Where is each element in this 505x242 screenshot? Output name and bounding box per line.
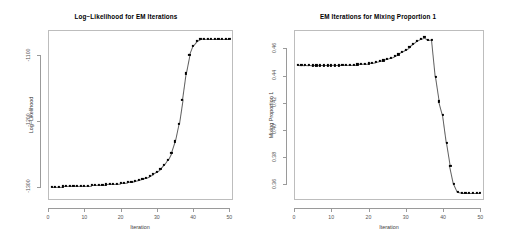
x-axis-tick (229, 208, 230, 212)
x-axis-title: Iteration (379, 224, 398, 230)
x-axis-tick-label: 10 (81, 214, 87, 220)
y-axis-tick-label: 0.40 (271, 119, 277, 139)
y-axis-line (286, 48, 287, 184)
plot-frame (48, 30, 233, 200)
panel-title: EM Iterations for Mixing Proportion 1 (252, 13, 504, 20)
x-axis-tick-label: 0 (47, 214, 50, 220)
x-axis-tick-label: 20 (366, 214, 372, 220)
y-axis-tick-label: 0.44 (271, 65, 277, 85)
x-axis-title: Iteration (130, 224, 149, 230)
x-axis-tick (369, 208, 370, 212)
y-axis-tick-label: 0.42 (271, 92, 277, 112)
x-axis-tick-label: 0 (293, 214, 296, 220)
x-axis-tick (84, 208, 85, 212)
y-axis-tick (283, 76, 287, 77)
x-axis-tick (121, 208, 122, 212)
x-axis-tick-label: 50 (226, 214, 232, 220)
x-axis-tick-label: 10 (328, 214, 334, 220)
panel-title: Log−Likelihood for EM Iterations (0, 13, 252, 20)
x-axis-tick-label: 50 (477, 214, 483, 220)
x-axis-tick (480, 208, 481, 212)
y-axis-title: Mixing Proportion 1 (268, 78, 274, 152)
y-axis-tick-label: 0.38 (271, 147, 277, 167)
y-axis-tick (283, 184, 287, 185)
y-axis-tick (283, 130, 287, 131)
y-axis-tick (283, 157, 287, 158)
x-axis-tick (294, 208, 295, 212)
y-axis-tick (37, 121, 41, 122)
y-axis-tick (283, 103, 287, 104)
y-axis-tick-label: -1100 (25, 45, 31, 65)
y-axis-tick (283, 48, 287, 49)
x-axis-tick (331, 208, 332, 212)
y-axis-tick (37, 187, 41, 188)
x-axis-tick (157, 208, 158, 212)
plot-frame (294, 30, 484, 200)
em-algorithm-figure: Log−Likelihood for EM Iterations Iterati… (0, 0, 505, 242)
x-axis-tick (48, 208, 49, 212)
y-axis-tick-label: 0.36 (271, 174, 277, 194)
x-axis-line (294, 208, 480, 209)
x-axis-line (48, 208, 229, 209)
y-axis-tick-label: -1300 (25, 176, 31, 196)
x-axis-tick-label: 30 (154, 214, 160, 220)
x-axis-tick-label: 20 (118, 214, 124, 220)
x-axis-tick (193, 208, 194, 212)
y-axis-tick-label: 0.46 (271, 38, 277, 58)
x-axis-tick-label: 40 (190, 214, 196, 220)
log-likelihood-panel: Log−Likelihood for EM Iterations Iterati… (0, 0, 252, 242)
x-axis-tick-label: 40 (440, 214, 446, 220)
mixing-proportion-panel: EM Iterations for Mixing Proportion 1 It… (252, 0, 504, 242)
x-axis-tick (443, 208, 444, 212)
y-axis-tick (37, 55, 41, 56)
x-axis-tick (406, 208, 407, 212)
y-axis-tick-label: -1200 (25, 110, 31, 130)
x-axis-tick-label: 30 (403, 214, 409, 220)
